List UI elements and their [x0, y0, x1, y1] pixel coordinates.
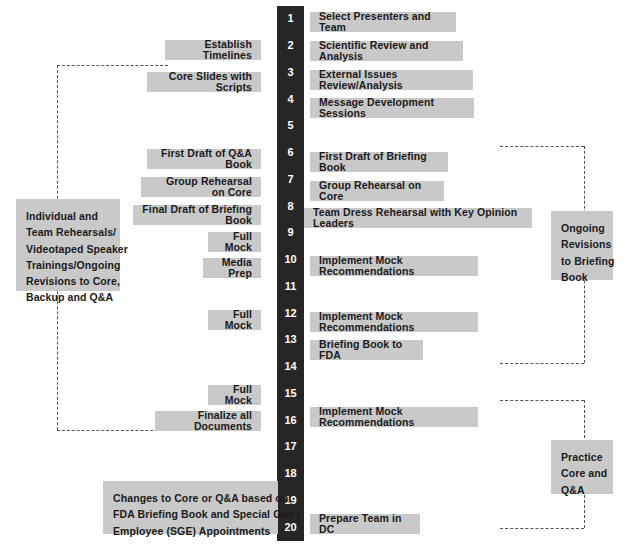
block-box-line: Individual and	[26, 208, 110, 224]
task-box-left[interactable]: Finalize all Documents	[155, 411, 261, 431]
week-number-3: 3	[277, 67, 304, 78]
week-number-7: 7	[277, 174, 304, 185]
week-number-9: 9	[277, 227, 304, 238]
block-box-line: Practice	[561, 449, 603, 465]
block-box-line: Trainings/Ongoing	[26, 257, 110, 273]
task-box-right[interactable]: Team Dress Rehearsal with Key Opinion Le…	[304, 208, 532, 228]
week-number-17: 17	[277, 441, 304, 452]
week-number-1: 1	[277, 13, 304, 24]
left-bracket-top-line	[57, 65, 168, 66]
task-box-left[interactable]: Full Mock	[208, 310, 261, 330]
week-number-16: 16	[277, 415, 304, 426]
block-box-line: Ongoing	[561, 220, 603, 236]
task-box-left[interactable]: Establish Timelines	[165, 40, 261, 60]
individual-team-rehearsals-box[interactable]: Individual andTeam Rehearsals/Videotaped…	[16, 199, 120, 291]
block-box-line: Videotaped Speaker	[26, 241, 110, 257]
week-number-15: 15	[277, 388, 304, 399]
week-number-2: 2	[277, 40, 304, 51]
task-box-left[interactable]: Full Mock	[208, 385, 261, 405]
block-box-line: Changes to Core or Q&A based on	[113, 490, 268, 506]
block-box-line: Core and	[561, 465, 603, 481]
task-box-right[interactable]: Briefing Book to FDA	[310, 340, 423, 360]
week-number-column	[277, 6, 304, 541]
timeline-diagram: 1234567891011121314151617181920 Establis…	[0, 0, 630, 547]
task-box-right[interactable]: External Issues Review/Analysis	[310, 70, 473, 90]
task-box-right[interactable]: Message Development Sessions	[310, 98, 474, 118]
left-bracket-bottom-line	[57, 430, 168, 431]
week-number-14: 14	[277, 361, 304, 372]
task-box-right[interactable]: Implement Mock Recommendations	[310, 256, 478, 276]
block-box-line: Backup and Q&A	[26, 289, 110, 305]
task-box-left[interactable]: Final Draft of Briefing Book	[133, 205, 261, 225]
block-box-line: Q&A	[561, 482, 603, 498]
practice-core-qa-box[interactable]: PracticeCore andQ&A	[551, 440, 613, 494]
fda-changes-box[interactable]: Changes to Core or Q&A based onFDA Brief…	[103, 481, 278, 534]
block-box-line: to Briefing	[561, 253, 603, 269]
task-box-right[interactable]: Group Rehearsal on Core	[310, 181, 444, 201]
block-box-line: Revisions to Core,	[26, 273, 110, 289]
week-number-10: 10	[277, 254, 304, 265]
task-box-left[interactable]: Group Rehearsal on Core	[141, 177, 261, 197]
week-number-6: 6	[277, 147, 304, 158]
week-number-13: 13	[277, 334, 304, 345]
right-upper-top-line	[500, 146, 584, 147]
week-number-12: 12	[277, 308, 304, 319]
right-upper-bottom-line	[500, 363, 584, 364]
week-number-20: 20	[277, 522, 304, 533]
task-box-left[interactable]: Core Slides with Scripts	[147, 72, 261, 92]
block-box-line: Team Rehearsals/	[26, 224, 110, 240]
right-lower-top-line	[500, 400, 584, 401]
task-box-left[interactable]: First Draft of Q&A Book	[147, 149, 261, 169]
week-number-4: 4	[277, 94, 304, 105]
task-box-right[interactable]: Prepare Team in DC	[310, 514, 420, 534]
task-box-right[interactable]: Scientific Review and Analysis	[310, 41, 463, 61]
task-box-right[interactable]: Select Presenters and Team	[310, 12, 456, 32]
right-lower-bottom-line	[500, 528, 584, 529]
week-number-8: 8	[277, 201, 304, 212]
block-box-line: FDA Briefing Book and Special Gov't	[113, 506, 268, 522]
task-box-right[interactable]: First Draft of Briefing Book	[310, 152, 448, 172]
task-box-right[interactable]: Implement Mock Recommendations	[310, 312, 478, 332]
week-number-11: 11	[277, 281, 304, 292]
task-box-left[interactable]: Media Prep	[203, 258, 261, 278]
block-box-line: Revisions	[561, 236, 603, 252]
week-number-18: 18	[277, 468, 304, 479]
ongoing-revisions-box[interactable]: OngoingRevisionsto BriefingBook	[551, 211, 613, 280]
week-number-5: 5	[277, 120, 304, 131]
task-box-right[interactable]: Implement Mock Recommendations	[310, 407, 478, 427]
block-box-line: Book	[561, 269, 603, 285]
block-box-line: Employee (SGE) Appointments	[113, 523, 268, 539]
task-box-left[interactable]: Full Mock	[208, 232, 261, 252]
